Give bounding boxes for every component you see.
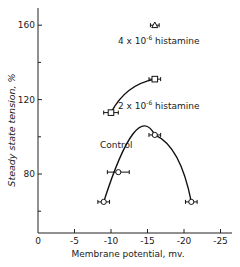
y-tick-label: 120 (18, 95, 35, 105)
control-label: Control (100, 140, 133, 150)
chart-canvas: 0-5-10-15-20-2580120160 Control 2 x 10-6… (0, 0, 240, 267)
x-axis-label: Membrane potential, mv. (71, 249, 184, 259)
circle-marker (152, 132, 157, 137)
histamine-2-label: 2 x 10-6 histamine (118, 99, 200, 111)
y-tick-label: 80 (24, 169, 36, 179)
x-tick-label: -25 (213, 236, 228, 246)
y-tick-label: 160 (18, 20, 35, 30)
histamine-4-label: 4 x 10-6 histamine (118, 34, 200, 46)
x-tick-label: -15 (140, 236, 155, 246)
y-axis-label: Steady state tension, % (6, 73, 17, 186)
circle-marker (116, 170, 121, 175)
square-marker (152, 76, 158, 82)
control-curve (104, 126, 192, 202)
x-tick-label: -10 (104, 236, 119, 246)
circle-marker (101, 199, 106, 204)
square-marker (108, 110, 114, 116)
chart: 0-5-10-15-20-2580120160 Control 2 x 10-6… (0, 0, 240, 267)
x-tick-label: -20 (177, 236, 192, 246)
x-tick-label: 0 (35, 236, 41, 246)
circle-marker (189, 199, 194, 204)
x-tick-label: -5 (70, 236, 79, 246)
